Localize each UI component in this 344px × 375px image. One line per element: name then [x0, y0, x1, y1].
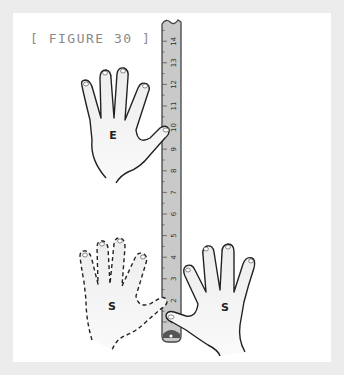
ruler-label: 9 [170, 147, 178, 151]
ruler-label: 5 [170, 233, 178, 237]
ruler-label: 3 [170, 277, 178, 281]
ruler-label: 7 [170, 190, 178, 194]
ruler-label: 11 [170, 102, 178, 111]
ruler-label: 2 [170, 298, 178, 302]
ruler-label: 8 [170, 169, 178, 173]
hand-label-s-left: S [108, 300, 116, 313]
hand-label-e: E [109, 129, 117, 142]
ruler-label: 6 [170, 211, 178, 216]
ruler-label: 10 [170, 123, 178, 132]
hand-upper-e: E [82, 68, 170, 183]
ruler-label: 14 [170, 36, 178, 45]
ruler: 1234567891011121314 [162, 20, 181, 342]
ruler-label: 4 [170, 254, 178, 259]
ruler-label: 13 [170, 58, 178, 67]
hand-lower-left-s: S [80, 238, 167, 350]
hand-label-s-right: S [221, 301, 229, 314]
figure-illustration: 1234567891011121314 E S S [0, 0, 344, 375]
ruler-hole-icon [169, 334, 172, 337]
ruler-label: 12 [170, 80, 178, 89]
